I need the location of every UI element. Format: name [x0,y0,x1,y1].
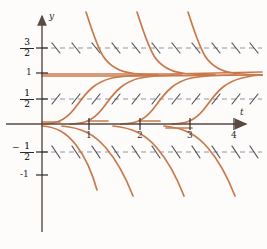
curve-diverge-c [113,126,184,196]
y-tick-label-neg-1-over-2: 1 2 [20,142,34,162]
y-tick-label-neg-1-over-2-numerator: 1 [20,142,34,151]
y-tick-label-neg-1-over-2-sign: − [12,143,20,152]
x-tick-label-4: 4 [231,131,237,140]
y-tick-label-1-over-2-numerator: 1 [20,89,34,98]
x-tick-label-2: 2 [137,131,143,140]
y-tick-label-1-over-2-denominator: 2 [20,100,34,109]
curve-diverge-d [164,126,235,196]
plot-canvas [0,0,267,249]
y-tick-label-3-over-2-numerator: 3 [20,38,34,47]
direction-field-figure: y t 3 2 1 1 2 − 1 2 -1 1 2 3 4 [0,0,267,249]
curve-fall-b [137,12,215,75]
y-tick-label-3-over-2: 3 2 [20,38,34,58]
y-tick-label-1-over-2: 1 2 [20,89,34,109]
x-axis-label: t [240,108,244,117]
y-tick-label-neg-1: -1 [20,170,29,179]
y-axis-label: y [49,12,54,21]
y-tick-label-neg-1-over-2-denominator: 2 [20,153,34,162]
x-tick-label-1: 1 [86,131,92,140]
y-tick-label-3-over-2-denominator: 2 [20,49,34,58]
curve-diverge-b [62,126,133,196]
y-tick-label-1: 1 [26,68,32,77]
x-tick-label-3: 3 [187,131,193,140]
